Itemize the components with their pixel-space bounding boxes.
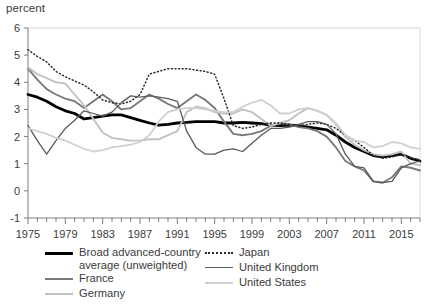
x-axis-tick-label: 1975 xyxy=(16,228,40,240)
legend-item-broad-average-swatch xyxy=(45,246,73,259)
legend-item-germany[interactable]: Germany xyxy=(45,287,205,301)
y-axis-tick-label: 5 xyxy=(14,49,20,61)
x-axis-tick-label: 2011 xyxy=(352,228,376,240)
x-axis-tick-label: 1979 xyxy=(53,228,77,240)
series-line-france xyxy=(28,69,420,183)
legend-item-germany-label: Germany xyxy=(79,287,125,300)
y-axis-tick-label: 0 xyxy=(14,185,20,197)
x-axis-tick-label: 2015 xyxy=(389,228,413,240)
legend-item-japan-label: Japan xyxy=(239,246,269,259)
legend-item-france[interactable]: France xyxy=(45,272,205,286)
legend-item-broad-average[interactable]: Broad advanced-country average (unweight… xyxy=(45,246,205,271)
legend-item-germany-swatch xyxy=(45,287,73,300)
series-line-united-states xyxy=(28,100,420,152)
legend-item-united-kingdom[interactable]: United Kingdom xyxy=(205,261,405,275)
y-axis-tick-label: -1 xyxy=(10,212,20,224)
x-axis-tick-label: 1999 xyxy=(240,228,264,240)
y-axis-tick-label: 3 xyxy=(14,103,20,115)
legend-item-united-states[interactable]: United States xyxy=(205,276,405,290)
series-line-broad-advanced-country-average-unweighted xyxy=(28,95,420,162)
chart-legend: Broad advanced-country average (unweight… xyxy=(0,246,428,306)
y-axis-tick-label: 1 xyxy=(14,158,20,170)
y-axis-tick-label: 2 xyxy=(14,131,20,143)
legend-item-broad-average-label: Broad advanced-country average (unweight… xyxy=(79,246,201,271)
x-axis-tick-label: 2003 xyxy=(277,228,301,240)
legend-item-japan-swatch xyxy=(205,246,233,259)
legend-column-right: JapanUnited KingdomUnited States xyxy=(205,246,405,291)
series-line-japan xyxy=(28,50,420,160)
line-chart-plot: -101234561975197919831987199119951999200… xyxy=(0,0,428,246)
legend-item-united-kingdom-label: United Kingdom xyxy=(239,261,319,274)
x-axis-tick-label: 1983 xyxy=(90,228,114,240)
legend-item-united-states-swatch xyxy=(205,276,233,289)
x-axis-tick-label: 2007 xyxy=(314,228,338,240)
legend-item-france-swatch xyxy=(45,272,73,285)
legend-item-japan[interactable]: Japan xyxy=(205,246,405,260)
legend-column-left: Broad advanced-country average (unweight… xyxy=(45,246,205,302)
y-axis-tick-label: 4 xyxy=(14,76,20,88)
x-axis-tick-label: 1987 xyxy=(128,228,152,240)
y-axis-tick-label: 6 xyxy=(14,22,20,34)
chart-root: percent -1012345619751979198319871991199… xyxy=(0,0,428,306)
x-axis-tick-label: 1995 xyxy=(202,228,226,240)
x-axis-tick-label: 1991 xyxy=(165,228,189,240)
legend-item-france-label: France xyxy=(79,272,114,285)
legend-item-united-kingdom-swatch xyxy=(205,261,233,274)
legend-item-united-states-label: United States xyxy=(239,276,306,289)
